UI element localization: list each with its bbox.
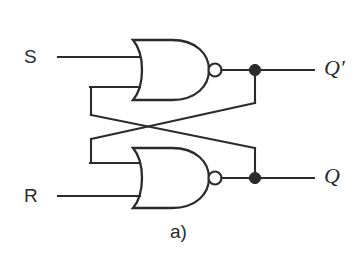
- gate-top-nor-body: [133, 40, 209, 100]
- junction-dot-qbar: [249, 64, 260, 75]
- gate-top-inverter-bubble-icon: [209, 64, 222, 77]
- input-label-r: R: [24, 186, 38, 205]
- junction-dot-q: [249, 172, 260, 183]
- figure-root: S R Q′ Q a): [0, 0, 362, 268]
- gate-bottom-inverter-bubble-icon: [209, 172, 222, 185]
- input-label-s: S: [24, 47, 37, 66]
- output-label-q-prime: Q′: [324, 57, 345, 79]
- output-label-q: Q: [324, 165, 340, 187]
- gate-bottom-nor-body: [133, 148, 209, 208]
- figure-caption: a): [170, 222, 187, 241]
